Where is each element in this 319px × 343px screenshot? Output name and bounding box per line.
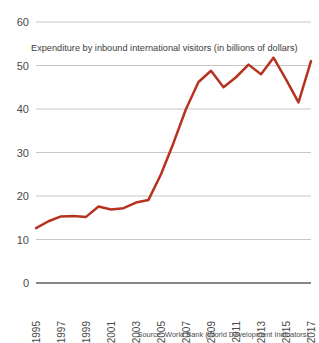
x-tick-label-2001: 2001: [106, 321, 117, 343]
gridlines-group: [36, 22, 311, 240]
y-tick-label-10: 10: [17, 234, 29, 246]
y-tick-label-50: 50: [17, 60, 29, 72]
y-tick-label-0: 0: [23, 277, 29, 289]
x-tick-label-1997: 1997: [56, 321, 67, 343]
y-tick-label-40: 40: [17, 103, 29, 115]
line-chart: 0102030405060 19951997199920012003200520…: [0, 0, 319, 343]
y-tick-label-30: 30: [17, 147, 29, 159]
y-tick-label-60: 60: [17, 16, 29, 28]
source-note: Source: World Bank (World Development In…: [138, 330, 311, 339]
chart-title: Expenditure by inbound international vis…: [31, 43, 298, 53]
x-tick-label-1995: 1995: [31, 321, 42, 343]
y-axis-tick-labels: 0102030405060: [17, 16, 29, 289]
data-series-line: [36, 58, 311, 229]
y-tick-label-20: 20: [17, 190, 29, 202]
x-tick-label-1999: 1999: [81, 321, 92, 343]
chart-container: 0102030405060 19951997199920012003200520…: [0, 0, 319, 343]
